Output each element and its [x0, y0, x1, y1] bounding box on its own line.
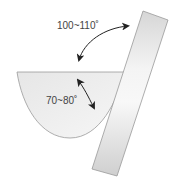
inner-angle-label: 70~80˚: [46, 95, 77, 106]
angle-diagram: 100~110˚ 70~80˚: [0, 0, 180, 186]
outer-angle-label: 100~110˚: [57, 20, 99, 31]
outer-angle-arrow: [79, 26, 128, 60]
